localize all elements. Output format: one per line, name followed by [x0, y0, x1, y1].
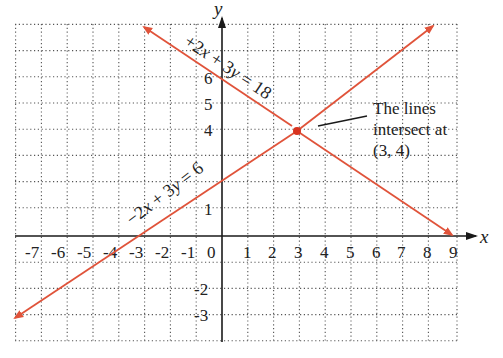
- svg-text:1: 1: [204, 200, 213, 219]
- svg-text:5: 5: [204, 95, 213, 114]
- line-neg2x-plus-3y-eq-6-lower: [15, 131, 297, 318]
- svg-text:8: 8: [423, 243, 432, 262]
- svg-text:-3: -3: [129, 243, 143, 262]
- annotation-pointer: [318, 116, 367, 126]
- svg-text:The lines: The lines: [373, 99, 436, 118]
- y-axis-label: y: [212, 0, 223, 19]
- svg-text:0: 0: [207, 243, 216, 262]
- coordinate-plane: x y -7 -6 -5 -4 -3 -2 -1 0 1 2 3 4 5 6 7…: [0, 0, 503, 358]
- svg-text:-5: -5: [77, 243, 91, 262]
- svg-text:4: 4: [320, 243, 329, 262]
- svg-text:-6: -6: [51, 243, 65, 262]
- svg-text:intersect at: intersect at: [373, 120, 447, 139]
- svg-text:(3, 4): (3, 4): [373, 141, 410, 160]
- svg-text:7: 7: [397, 243, 406, 262]
- x-tick-labels: -7 -6 -5 -4 -3 -2 -1 0 1 2 3 4 5 6 7 8 9: [25, 243, 458, 262]
- intersection-annotation: The lines intersect at (3, 4): [373, 99, 447, 160]
- svg-text:-2: -2: [155, 243, 169, 262]
- x-axis-label: x: [479, 226, 489, 247]
- svg-text:1: 1: [243, 243, 252, 262]
- svg-text:5: 5: [346, 243, 355, 262]
- intersection-point: [293, 127, 301, 135]
- svg-text:9: 9: [449, 243, 458, 262]
- svg-text:6: 6: [372, 243, 381, 262]
- equation-label-1: +2x + 3y = 18: [181, 31, 276, 104]
- svg-text:4: 4: [204, 121, 213, 140]
- svg-text:-7: -7: [25, 243, 40, 262]
- svg-text:-2: -2: [194, 280, 208, 299]
- svg-text:-3: -3: [194, 306, 208, 325]
- svg-text:2: 2: [268, 243, 277, 262]
- svg-text:3: 3: [294, 243, 303, 262]
- svg-text:-1: -1: [181, 243, 195, 262]
